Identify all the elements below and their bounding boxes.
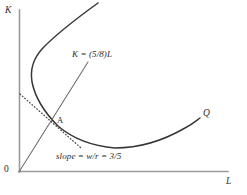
isoquant-label: Q — [203, 109, 210, 119]
expansion-path-label: K = (5/8)L — [72, 50, 112, 59]
origin-label: 0 — [4, 165, 9, 175]
isoquant-figure: K L 0 Q A K = (5/8)L slope = w/r = 3/5 — [0, 0, 247, 195]
tangency-point-label: A — [57, 116, 63, 125]
figure-canvas — [0, 0, 247, 195]
x-axis-label: L — [226, 177, 231, 187]
isocost-slope-label: slope = w/r = 3/5 — [56, 152, 121, 161]
y-axis-label: K — [5, 6, 11, 16]
